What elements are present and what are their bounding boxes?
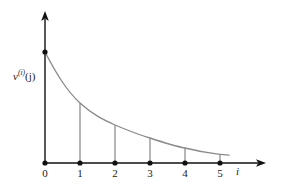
y-axis-label: v(i)(j) xyxy=(13,69,35,82)
xtick-label-2: 2 xyxy=(107,168,123,179)
data-point-markers xyxy=(42,49,222,165)
stem-group xyxy=(80,103,220,163)
xtick-label-0: 0 xyxy=(37,168,53,179)
plot-area xyxy=(0,0,284,189)
xtick-label-4: 4 xyxy=(177,168,193,179)
xtick-label-3: 3 xyxy=(142,168,158,179)
figure-container: v(i)(j) 0 1 2 3 4 5 i xyxy=(0,0,284,189)
decay-curve xyxy=(45,52,229,155)
xtick-label-1: 1 xyxy=(72,168,88,179)
axis-tick-2 xyxy=(112,160,117,165)
y-axis-label-superscript: (i) xyxy=(18,68,25,77)
y-axis-label-argument: (j) xyxy=(25,70,35,82)
axis-tick-3 xyxy=(147,160,152,165)
xtick-label-5: 5 xyxy=(212,168,228,179)
x-axis-label: i xyxy=(236,166,239,177)
axis-tick-1 xyxy=(77,160,82,165)
axis-tick-5 xyxy=(217,160,222,165)
data-point-0 xyxy=(42,49,47,54)
axis-tick-4 xyxy=(182,160,187,165)
origin-tick-0 xyxy=(42,160,47,165)
